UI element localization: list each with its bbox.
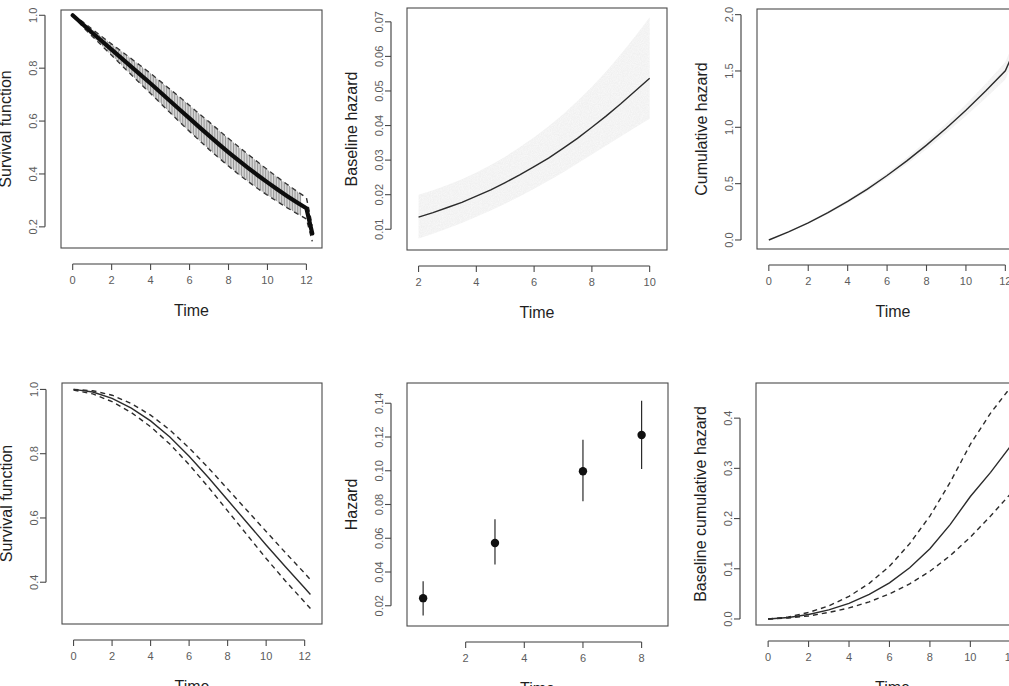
x-axis: 024681012 (70, 640, 310, 662)
data-point (491, 539, 499, 547)
panel-3: 024681012Time0.00.51.01.52.0Cumulative h… (684, 0, 1009, 343)
x-tick-label: 10 (964, 651, 976, 663)
x-tick-label: 6 (186, 274, 192, 286)
x-axis-title: Time (876, 303, 911, 320)
y-axis-title: Baseline cumulative hazard (692, 406, 709, 602)
y-tick-label: 0.06 (373, 528, 385, 549)
panel-4: 024681012Time0.40.60.81.0Survival functi… (0, 343, 340, 686)
confidence-lower-dashed (768, 489, 1009, 619)
x-tick-label: 10 (261, 274, 273, 286)
y-tick-label: 0.07 (373, 11, 385, 32)
y-axis: 0.010.020.030.040.050.060.07 (373, 11, 391, 240)
x-axis: 024681012 (765, 641, 1009, 663)
estimate-curve (768, 442, 1009, 619)
confidence-lower-dashed (74, 390, 311, 609)
y-tick-label: 0.6 (28, 510, 40, 525)
x-tick-label: 6 (886, 651, 892, 663)
x-tick-label: 4 (148, 274, 154, 286)
y-tick-label: 0.4 (722, 410, 734, 425)
panel-1: 024681012Time0.20.40.60.81.0Survival fun… (0, 0, 340, 343)
plot-frame (61, 10, 322, 248)
y-tick-label: 0.8 (28, 446, 40, 461)
y-tick-label: 1.0 (723, 120, 735, 135)
y-tick-label: 0.2 (722, 511, 734, 526)
y-tick-label: 0.10 (373, 460, 385, 481)
x-tick-label: 8 (927, 651, 933, 663)
panel-6: 024681012Time0.00.10.20.30.4Baseline cum… (684, 343, 1009, 686)
x-tick-label: 10 (260, 650, 272, 662)
x-tick-label: 0 (70, 274, 76, 286)
y-tick-label: 0.5 (723, 176, 735, 191)
data-point (579, 467, 587, 475)
y-tick-label: 0.0 (723, 232, 735, 247)
x-tick-label: 8 (639, 652, 645, 664)
x-tick-label: 12 (999, 275, 1009, 287)
x-tick-label: 4 (473, 276, 479, 288)
y-axis-title: Cumulative hazard (693, 62, 710, 195)
plot-frame (756, 383, 1009, 625)
y-tick-label: 0.8 (27, 61, 39, 76)
plot-frame (62, 383, 322, 624)
x-axis: 2468 (463, 642, 645, 664)
x-tick-label: 12 (300, 274, 312, 286)
y-tick-label: 0.08 (373, 494, 385, 515)
panel-2-canvas: 246810Time0.010.020.030.040.050.060.07Ba… (336, 0, 681, 343)
x-tick-label: 2 (109, 274, 115, 286)
plot-frame (407, 383, 668, 626)
x-tick-label: 6 (884, 275, 890, 287)
panel-1-canvas: 024681012Time0.20.40.60.81.0Survival fun… (0, 0, 340, 343)
x-axis: 024681012 (70, 264, 313, 286)
y-tick-label: 0.02 (373, 595, 385, 616)
data-point (637, 431, 645, 439)
x-tick-label: 6 (186, 650, 192, 662)
y-tick-label: 1.0 (28, 382, 40, 397)
y-tick-label: 0.0 (722, 611, 734, 626)
x-tick-label: 10 (960, 275, 972, 287)
y-tick-label: 0.14 (373, 393, 385, 414)
confidence-band (769, 35, 1009, 240)
x-axis: 246810 (415, 266, 655, 288)
point-estimates (419, 401, 646, 616)
y-tick-label: 1.5 (723, 63, 735, 78)
y-tick-label: 0.12 (373, 426, 385, 447)
confidence-upper-dashed (74, 389, 311, 579)
x-tick-label: 2 (806, 651, 812, 663)
panel-4-canvas: 024681012Time0.40.60.81.0Survival functi… (0, 343, 340, 686)
x-tick-label: 4 (521, 652, 527, 664)
x-axis-title: Time (520, 680, 555, 686)
y-tick-label: 0.4 (27, 166, 39, 181)
estimate-curve (74, 389, 311, 594)
x-tick-label: 4 (148, 650, 154, 662)
y-tick-label: 0.06 (373, 46, 385, 67)
x-tick-label: 8 (589, 276, 595, 288)
data-point (419, 594, 427, 602)
x-tick-label: 10 (644, 276, 656, 288)
x-tick-label: 6 (531, 276, 537, 288)
x-tick-label: 0 (765, 651, 771, 663)
figure-panel-grid: 024681012Time0.20.40.60.81.0Survival fun… (0, 0, 1009, 686)
panel-5: 2468Time0.020.040.060.080.100.120.14Haza… (336, 343, 681, 686)
x-tick-label: 0 (70, 650, 76, 662)
y-tick-label: 0.4 (28, 575, 40, 590)
estimate-curve (769, 44, 1009, 240)
y-tick-label: 0.3 (722, 461, 734, 476)
x-tick-label: 8 (225, 650, 231, 662)
y-tick-label: 1.0 (27, 8, 39, 23)
y-tick-label: 0.04 (373, 561, 385, 582)
x-tick-label: 8 (225, 274, 231, 286)
x-axis: 024681012 (766, 265, 1009, 287)
x-axis-title: Time (174, 302, 209, 319)
x-tick-label: 0 (766, 275, 772, 287)
x-tick-label: 8 (923, 275, 929, 287)
y-axis-title: Survival function (0, 70, 14, 187)
y-tick-label: 0.05 (373, 80, 385, 101)
y-axis-title: Survival function (0, 445, 15, 562)
y-tick-label: 0.01 (373, 219, 385, 240)
x-tick-label: 6 (580, 652, 586, 664)
x-tick-label: 12 (1005, 651, 1009, 663)
x-tick-label: 2 (463, 652, 469, 664)
x-tick-label: 2 (109, 650, 115, 662)
y-axis-title: Hazard (343, 479, 360, 531)
y-axis-title: Baseline hazard (343, 72, 360, 187)
y-axis: 0.20.40.60.81.0 (27, 8, 45, 235)
